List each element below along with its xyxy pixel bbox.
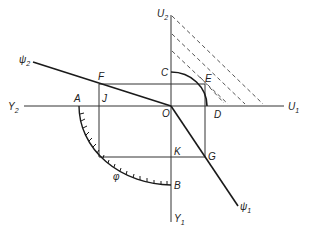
label-Y1: Y1 <box>174 213 185 226</box>
label-G: G <box>208 151 216 162</box>
label-A: A <box>73 93 81 104</box>
arc-C-D <box>171 72 207 106</box>
label-U2: U2 <box>157 8 168 21</box>
label-O: O <box>162 108 170 119</box>
label-F: F <box>98 71 105 82</box>
label-psi1: ψ1 <box>240 201 251 214</box>
arc-A-B <box>79 106 171 185</box>
dashed-lines <box>172 16 263 104</box>
label-B: B <box>174 180 181 191</box>
label-phi: φ <box>113 171 120 182</box>
label-Y2: Y2 <box>8 101 19 114</box>
label-K: K <box>174 146 182 157</box>
label-E: E <box>205 73 212 84</box>
label-psi2: ψ2 <box>19 54 30 67</box>
diagram-canvas: U2 Y1 U1 Y2 ψ2 ψ1 A J F C E O D K G B φ <box>0 0 309 236</box>
label-U1: U1 <box>288 101 299 114</box>
label-D: D <box>214 109 221 120</box>
label-C: C <box>161 67 169 78</box>
label-J: J <box>101 93 108 104</box>
